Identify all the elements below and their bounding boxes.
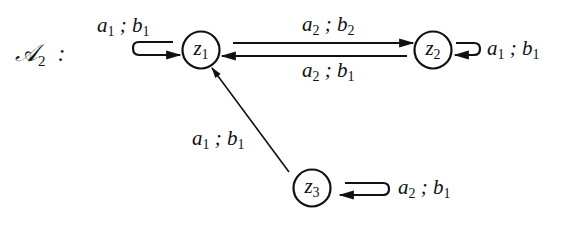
edge-z3-z1 [212,68,289,172]
edge-z3-loop [340,183,389,195]
automaton-title: 𝒜2 : [15,40,66,70]
edge-label-z1-z2: a2 ; b2 [302,14,355,38]
edge-z1-loop [133,42,180,55]
edge-z2-loop [455,43,480,55]
edge-label-z3-loop: a2 ; b1 [398,177,451,201]
edge-label-z2-loop: a1 ; b1 [487,38,540,62]
state-z2-label: z2 [413,38,453,62]
edge-label-z3-z1: a1 ; b1 [192,128,245,152]
edge-label-z1-loop: a1 ; b1 [97,15,150,39]
state-z1-label: z1 [181,38,221,62]
edge-label-z2-z1: a2 ; b1 [302,60,355,84]
state-z3-label: z3 [292,176,332,200]
